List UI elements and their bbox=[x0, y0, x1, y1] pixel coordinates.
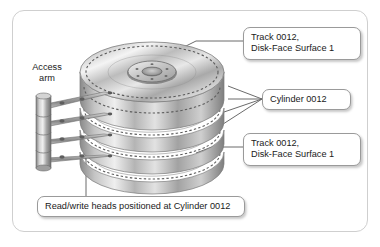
callout-cylinder-line1: Cylinder 0012 bbox=[270, 94, 343, 105]
callout-heads-line1: Read/write heads positioned at Cylinder … bbox=[45, 201, 237, 212]
access-arm-label-line1: Access bbox=[21, 62, 73, 73]
arm-pivot-spindle bbox=[36, 93, 51, 171]
spindle-hub bbox=[127, 61, 177, 84]
access-arm-label-line2: arm bbox=[21, 73, 73, 84]
callout-track-top-line1: Track 0012, bbox=[251, 32, 353, 43]
callout-track-bottom-line1: Track 0012, bbox=[251, 138, 353, 149]
callout-cylinder: Cylinder 0012 bbox=[262, 89, 351, 110]
disk-diagram-figure: Access arm Track 0012, Disk-Face Surface… bbox=[0, 0, 380, 247]
leader-cylinder-4 bbox=[220, 99, 262, 126]
leader-cylinder-3 bbox=[224, 99, 262, 112]
callout-track-bottom: Track 0012, Disk-Face Surface 1 bbox=[243, 133, 361, 166]
callout-read-write-heads: Read/write heads positioned at Cylinder … bbox=[37, 196, 245, 217]
callout-track-top: Track 0012, Disk-Face Surface 1 bbox=[243, 27, 361, 60]
leader-cylinder-1 bbox=[228, 86, 262, 99]
callout-track-bottom-line2: Disk-Face Surface 1 bbox=[251, 149, 353, 160]
callout-track-top-line2: Disk-Face Surface 1 bbox=[251, 43, 353, 54]
platter-stack bbox=[80, 42, 224, 194]
access-arm-label: Access arm bbox=[21, 62, 73, 85]
